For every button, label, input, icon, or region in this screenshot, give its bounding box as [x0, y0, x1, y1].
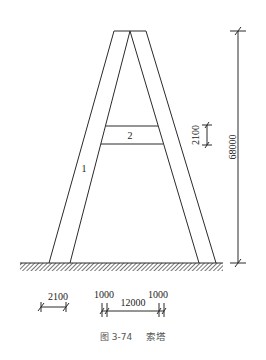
dimension-tower-height-label: 68000: [227, 135, 238, 160]
cable-tower-diagram: 1 2 68000 2100 2100 1000 120: [0, 0, 266, 360]
ground-hatch: [20, 263, 223, 271]
figure-caption-title: 索塔: [146, 331, 166, 342]
tower: [49, 31, 216, 263]
left-leg-outer-edge: [49, 31, 114, 263]
dimension-leg-width: [38, 302, 69, 312]
right-leg-inner-edge: [130, 31, 199, 263]
label-crossbeam: 2: [128, 130, 133, 141]
left-leg-inner-edge: [70, 31, 130, 263]
dimension-crossbeam-depth-label: 2100: [190, 125, 201, 145]
label-leg: 1: [82, 163, 87, 174]
dimension-base-right-label: 1000: [148, 289, 168, 300]
figure-caption-number: 图 3-74: [100, 332, 133, 342]
dimension-base-left-label: 1000: [94, 289, 114, 300]
ground: [20, 263, 223, 271]
dimension-base-span-label: 12000: [121, 297, 146, 308]
dimension-leg-width-label: 2100: [48, 291, 68, 302]
dimension-crossbeam-depth: [202, 122, 212, 148]
